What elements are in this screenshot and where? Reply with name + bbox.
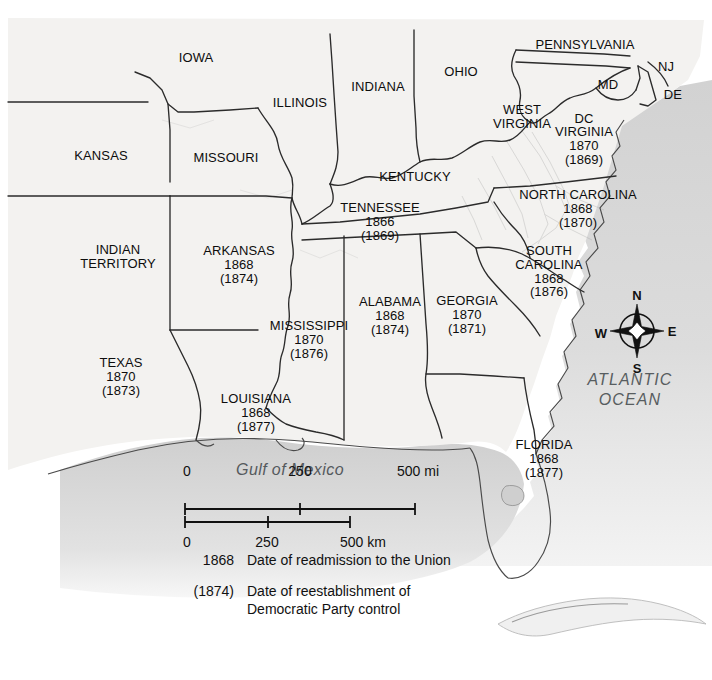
compass-north-label: N	[632, 288, 641, 303]
democratic-control-date: (1869)	[340, 229, 420, 243]
state-label-kentucky: KENTUCKY	[379, 170, 451, 184]
state-name: KANSAS	[74, 149, 127, 163]
legend-text-readmission: Date of readmission to the Union	[247, 552, 451, 570]
state-label-missouri: MISSOURI	[193, 151, 258, 165]
state-label-pennsylvania: PENNSYLVANIA	[536, 38, 635, 52]
scale-bar: 0 250 500 mi 0 250 500 km	[183, 488, 433, 540]
state-label-ohio: OHIO	[444, 65, 478, 79]
democratic-control-date: (1873)	[99, 384, 142, 398]
state-name: MISSISSIPPI	[270, 319, 348, 333]
compass-rose: N E S W	[596, 292, 678, 372]
state-name: NJ	[658, 60, 674, 74]
state-label-arkansas: ARKANSAS 1868 (1874)	[203, 244, 275, 285]
state-label-de: DE	[664, 88, 682, 102]
state-name: PENNSYLVANIA	[536, 38, 635, 52]
lake-okeechobee	[502, 485, 525, 505]
democratic-control-date: (1877)	[515, 466, 572, 480]
readmission-date: 1868	[203, 258, 275, 272]
legend-text-line1: Date of reestablishment of	[247, 583, 410, 599]
readmission-date: 1870	[555, 139, 613, 153]
state-label-virginia: VIRGINIA 1870 (1869)	[555, 125, 613, 166]
state-label-florida: FLORIDA 1868 (1877)	[515, 438, 572, 479]
map-legend: 1868 Date of readmission to the Union (1…	[172, 552, 451, 632]
state-label-nj: NJ	[658, 60, 674, 74]
scale-miles-tick-250: 250	[288, 463, 311, 479]
state-label-alabama: ALABAMA 1868 (1874)	[359, 295, 421, 336]
state-name: ILLINOIS	[273, 96, 327, 110]
state-label-tennessee: TENNESSEE 1866 (1869)	[340, 201, 420, 242]
legend-row-readmission: 1868 Date of readmission to the Union	[172, 552, 451, 570]
democratic-control-date: (1877)	[221, 420, 291, 434]
scale-km-row: 0 250 500 km	[183, 514, 433, 540]
readmission-date: 1868	[515, 272, 582, 286]
readmission-date: 1868	[515, 452, 572, 466]
state-name: KENTUCKY	[379, 170, 451, 184]
atlantic-ocean-label: ATLANTIC OCEAN	[588, 370, 673, 410]
state-name-line2: VIRGINIA	[493, 117, 551, 131]
democratic-control-date: (1876)	[270, 347, 348, 361]
scale-km-tick-500: 500 km	[340, 534, 386, 550]
legend-row-democratic: (1874) Date of reestablishment of Democr…	[172, 583, 451, 619]
state-label-texas: TEXAS 1870 (1873)	[99, 356, 142, 397]
state-label-mississippi: MISSISSIPPI 1870 (1876)	[270, 319, 348, 360]
state-name: IOWA	[179, 51, 214, 65]
readmission-date: 1870	[99, 370, 142, 384]
state-label-indian-territory: INDIAN TERRITORY	[80, 243, 156, 270]
legend-text-line2: Democratic Party control	[247, 601, 400, 617]
state-label-north-carolina: NORTH CAROLINA 1868 (1870)	[519, 188, 636, 229]
reconstruction-map: IOWA ILLINOIS INDIANA OHIO PENNSYLVANIA …	[0, 0, 712, 680]
state-name: DE	[664, 88, 682, 102]
readmission-date: 1866	[340, 215, 420, 229]
state-name: NORTH CAROLINA	[519, 188, 636, 202]
state-name: ARKANSAS	[203, 244, 275, 258]
state-label-georgia: GEORGIA 1870 (1871)	[436, 294, 497, 335]
state-label-iowa: IOWA	[179, 51, 214, 65]
state-name-line2: CAROLINA	[515, 258, 582, 272]
scale-km-tick-250: 250	[255, 534, 278, 550]
legend-key-democratic: (1874)	[172, 583, 247, 619]
state-name: VIRGINIA	[555, 125, 613, 139]
compass-south-label: S	[633, 361, 642, 376]
state-name-line1: WEST	[493, 103, 551, 117]
state-label-kansas: KANSAS	[74, 149, 127, 163]
state-label-md: MD	[598, 78, 618, 92]
democratic-control-date: (1874)	[359, 323, 421, 337]
legend-key-readmission: 1868	[172, 552, 247, 570]
scale-miles-tick-0: 0	[183, 463, 191, 479]
state-name: TENNESSEE	[340, 201, 420, 215]
democratic-control-date: (1876)	[515, 286, 582, 300]
state-label-indiana: INDIANA	[351, 80, 404, 94]
scale-miles-tick-500: 500 mi	[397, 463, 439, 479]
democratic-control-date: (1869)	[555, 153, 613, 167]
state-name-line1: SOUTH	[515, 244, 582, 258]
ocean-line2: OCEAN	[588, 390, 673, 410]
state-label-south-carolina: SOUTH CAROLINA 1868 (1876)	[515, 244, 582, 299]
compass-east-label: E	[668, 324, 677, 339]
state-name: TEXAS	[99, 356, 142, 370]
state-label-west-virginia: WEST VIRGINIA	[493, 103, 551, 130]
democratic-control-date: (1870)	[519, 216, 636, 230]
ocean-line1: ATLANTIC	[588, 370, 673, 390]
state-name: MISSOURI	[193, 151, 258, 165]
democratic-control-date: (1874)	[203, 272, 275, 286]
scale-miles-row: 0 250 500 mi	[183, 488, 433, 514]
state-name: MD	[598, 78, 618, 92]
state-label-louisiana: LOUISIANA 1868 (1877)	[221, 392, 291, 433]
democratic-control-date: (1871)	[436, 322, 497, 336]
state-name-line2: TERRITORY	[80, 257, 156, 271]
state-name: LOUISIANA	[221, 392, 291, 406]
state-name: ALABAMA	[359, 295, 421, 309]
readmission-date: 1870	[270, 333, 348, 347]
state-name-line1: INDIAN	[80, 243, 156, 257]
state-name: GEORGIA	[436, 294, 497, 308]
state-name: INDIANA	[351, 80, 404, 94]
readmission-date: 1870	[436, 308, 497, 322]
state-label-illinois: ILLINOIS	[273, 96, 327, 110]
readmission-date: 1868	[221, 406, 291, 420]
readmission-date: 1868	[359, 309, 421, 323]
compass-west-label: W	[595, 326, 607, 341]
state-name: FLORIDA	[515, 438, 572, 452]
legend-text-democratic: Date of reestablishment of Democratic Pa…	[247, 583, 410, 619]
scale-km-tick-0: 0	[183, 534, 191, 550]
readmission-date: 1868	[519, 202, 636, 216]
